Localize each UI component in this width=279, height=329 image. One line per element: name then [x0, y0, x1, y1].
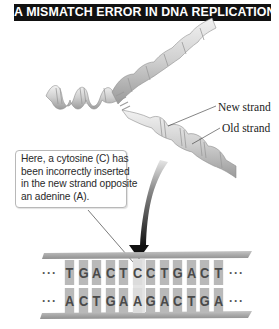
callout-line: been incorrectly inserted [21, 166, 126, 179]
base-new-1: G [78, 260, 87, 285]
base-old-0: A [65, 288, 74, 313]
parental-helix [46, 86, 118, 110]
base-new-9: A [186, 260, 195, 285]
base-old-9: T [186, 288, 195, 313]
base-old-4: A [119, 288, 128, 313]
base-new-mismatch: C [132, 260, 141, 285]
callout-line: Here, a cytosine (C) has [21, 153, 126, 166]
base-new-10: C [200, 260, 209, 285]
old-strand-sequence: ··· A C T G A A G A C T G A ··· [42, 288, 251, 313]
zoom-arrow [140, 160, 168, 246]
ellipsis-right: ··· [229, 266, 251, 280]
base-old-1: C [78, 288, 87, 313]
base-old-6: G [146, 288, 155, 313]
base-old-11: A [213, 288, 222, 313]
new-strand-sequence: ··· T G A C T C C T G A C T ··· [42, 260, 251, 285]
base-new-4: T [119, 260, 128, 285]
base-old-mismatch: A [132, 288, 141, 313]
base-old-2: T [92, 288, 101, 313]
base-old-8: C [173, 288, 182, 313]
upper-daughter-helix [112, 18, 216, 104]
old-strand-label: Old strand [222, 122, 270, 134]
ellipsis-right: ··· [229, 294, 251, 308]
base-old-3: G [105, 288, 114, 313]
base-new-0: T [65, 260, 74, 285]
base-new-3: C [105, 260, 114, 285]
new-strand-label: New strand [218, 101, 271, 113]
callout-line: in the new strand opposite [21, 178, 126, 191]
base-new-2: A [92, 260, 101, 285]
base-new-7: T [159, 260, 168, 285]
callout-line: an adenine (A). [21, 191, 126, 204]
base-new-11: T [213, 260, 222, 285]
mismatch-callout: Here, a cytosine (C) has been incorrectl… [15, 150, 127, 208]
ellipsis-left: ··· [42, 294, 64, 308]
top-rail [42, 251, 252, 259]
lower-daughter-helix [122, 110, 236, 178]
ellipsis-left: ··· [42, 266, 64, 280]
base-old-10: G [200, 288, 209, 313]
new-strand-leader [168, 106, 216, 126]
base-old-7: A [159, 288, 168, 313]
base-new-6: C [146, 260, 155, 285]
base-new-8: G [173, 260, 182, 285]
